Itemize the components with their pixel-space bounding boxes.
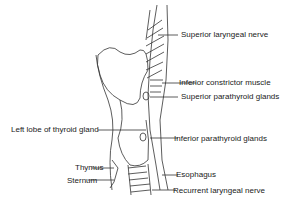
label-inferior-parathyroid-glands: Inferior parathyroid glands bbox=[174, 134, 267, 144]
label-superior-laryngeal-nerve: Superior laryngeal nerve bbox=[181, 30, 268, 40]
label-esophagus: Esophagus bbox=[176, 170, 216, 180]
thyroid-cartilage bbox=[97, 48, 148, 105]
inferior-parathyroid bbox=[140, 133, 146, 141]
label-recurrent-laryngeal-nerve: Recurrent laryngeal nerve bbox=[173, 186, 265, 196]
label-superior-parathyroid-glands: Superior parathyroid glands bbox=[181, 92, 279, 102]
label-sternum: Sternum bbox=[67, 176, 97, 186]
label-left-lobe-thyroid: Left lobe of thyroid gland bbox=[11, 125, 99, 135]
label-inferior-constrictor-muscle: Inferior constrictor muscle bbox=[179, 78, 271, 88]
label-thymus: Thymus bbox=[75, 163, 103, 173]
pharynx-outline bbox=[148, 5, 160, 190]
